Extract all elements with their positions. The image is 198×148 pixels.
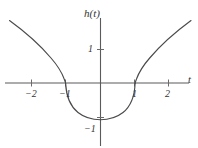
- y-tick-label-neg1: −1: [84, 124, 96, 134]
- x-tick-label-pos1: 1: [132, 89, 137, 99]
- function-label: h(t): [84, 8, 100, 19]
- x-axis-label: t: [188, 75, 191, 86]
- x-tick-label-neg1: −1: [59, 89, 71, 99]
- graph-figure: h(t) t −2 −1 1 2 1 −1: [0, 0, 198, 148]
- plot-area: [0, 0, 198, 148]
- curve-right-branch: [135, 21, 191, 84]
- x-tick-label-neg2: −2: [25, 89, 37, 99]
- curve-left-branch: [10, 21, 66, 84]
- x-tick-label-pos2: 2: [165, 89, 170, 99]
- y-tick-label-pos1: 1: [88, 44, 93, 54]
